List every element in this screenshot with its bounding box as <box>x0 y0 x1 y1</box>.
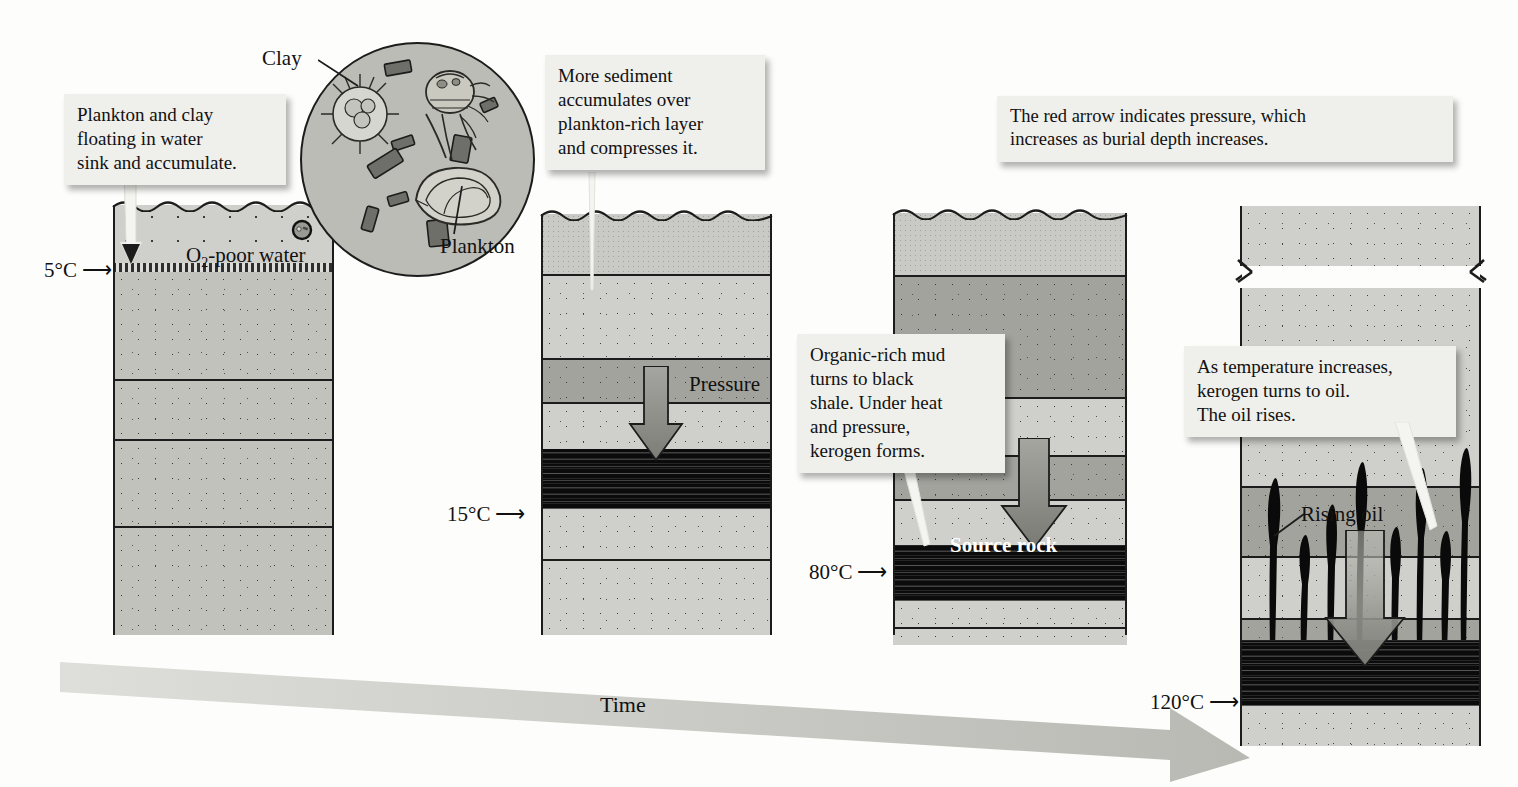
panel-3-temperature: 80°C ⟶ <box>809 560 887 585</box>
panel-3-temp-value: 80°C <box>809 560 852 585</box>
callout-2-pointer <box>584 172 600 292</box>
temp-arrow-icon-3: ⟶ <box>857 562 887 583</box>
panel-2-temperature: 15°C ⟶ <box>447 502 525 527</box>
callout-stage-3: Organic-rich mud turns to black shale. U… <box>797 334 1005 473</box>
temp-arrow-icon-2: ⟶ <box>495 504 525 525</box>
panel-1-temp-value: 5°C <box>44 258 77 283</box>
time-label: Time <box>600 692 646 718</box>
o2-label-o: O <box>186 243 201 267</box>
callout-stage-1: Plankton and clay floating in water sink… <box>64 94 286 185</box>
plankton-label: Plankton <box>440 234 515 259</box>
panel-4-temperature: 120°C ⟶ <box>1150 690 1239 715</box>
temp-arrow-icon: ⟶ <box>82 260 112 281</box>
o2-label-rest: -poor water <box>208 243 305 267</box>
callout-stage-2: More sediment accumulates over plankton-… <box>545 55 765 170</box>
plankton-leader-line <box>448 186 472 238</box>
o2-poor-water-label: O2-poor water <box>186 243 306 271</box>
callout-pressure-note: The red arrow indicates pressure, which … <box>997 96 1453 162</box>
clay-leader-line <box>318 58 362 92</box>
rising-oil-label: Rising oil <box>1301 502 1383 527</box>
temp-arrow-icon-4: ⟶ <box>1209 692 1239 713</box>
panel-2-temp-value: 15°C <box>447 502 490 527</box>
depth-break-symbol <box>1232 258 1490 292</box>
magnifier-source-marker <box>290 218 314 242</box>
source-rock-label: Source rock <box>950 533 1057 558</box>
callout-4-pointer <box>1393 422 1443 532</box>
pressure-label: Pressure <box>689 372 760 397</box>
panel-4-pressure-arrow <box>1320 530 1410 670</box>
clay-label: Clay <box>262 46 302 71</box>
panel-4-temp-value: 120°C <box>1150 690 1204 715</box>
panel-1-temperature: 5°C ⟶ <box>44 258 112 283</box>
panel-2-pressure-arrow <box>627 366 685 462</box>
figure-canvas: Time O2-poor water <box>0 0 1518 787</box>
rising-oil-leader-line <box>1270 512 1306 540</box>
panel-4-column-upper <box>1240 206 1481 266</box>
